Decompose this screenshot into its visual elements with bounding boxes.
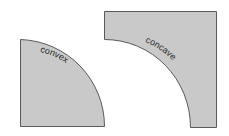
diagram-canvas: convex concave <box>0 0 229 136</box>
concave-shape <box>105 12 217 128</box>
